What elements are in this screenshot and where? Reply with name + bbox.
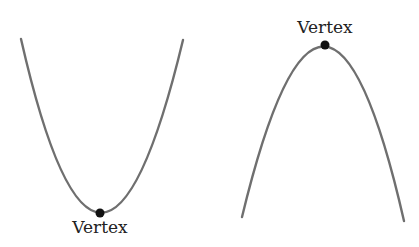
minimum-vertex-label: Vertex [71,217,128,237]
upward-parabola-curve [21,39,183,213]
maximum-vertex-label: Vertex [296,17,353,37]
downward-parabola: Vertex [242,17,404,221]
upward-parabola: Vertex [21,39,183,237]
parabola-diagram: Vertex Vertex [0,0,419,247]
downward-parabola-curve [242,46,404,221]
maximum-vertex-dot [321,41,330,50]
